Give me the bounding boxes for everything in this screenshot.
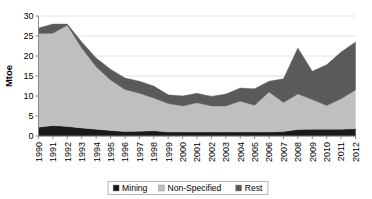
x-tick-label-2007: 2007 (279, 142, 289, 162)
y-tick-label: 15 (23, 71, 33, 81)
y-tick-label: 5 (28, 111, 33, 121)
x-tick-label-1990: 1990 (34, 142, 44, 162)
x-tick-label-2006: 2006 (264, 142, 274, 162)
legend-label-rest: Rest (245, 183, 263, 193)
x-tick-label-2002: 2002 (207, 142, 217, 162)
y-axis-label: Mtoe (3, 65, 14, 87)
stacked-area-chart: 051015202530 199019911992199319941995199… (0, 0, 372, 199)
legend-swatch-rest (236, 185, 242, 191)
x-tick-label-2003: 2003 (221, 142, 231, 162)
legend-label-non-specified: Non-Specified (167, 183, 221, 193)
x-tick-label-1996: 1996 (120, 142, 130, 162)
x-tick-label-2000: 2000 (178, 142, 188, 162)
x-tick-label-2004: 2004 (236, 142, 246, 162)
x-axis-ticks: 1990199119921993199419951996199719981999… (34, 136, 361, 162)
y-tick-label: 0 (28, 131, 33, 141)
x-tick-label-1997: 1997 (135, 142, 145, 162)
x-tick-label-2010: 2010 (322, 142, 332, 162)
area-series-group (39, 24, 356, 136)
legend-swatch-mining (113, 185, 119, 191)
x-tick-label-2009: 2009 (308, 142, 318, 162)
x-tick-label-1991: 1991 (48, 142, 58, 162)
x-tick-label-2011: 2011 (336, 142, 346, 161)
x-tick-label-1999: 1999 (164, 142, 174, 162)
x-tick-label-1995: 1995 (106, 142, 116, 162)
x-tick-label-1994: 1994 (92, 142, 102, 162)
x-tick-label-2005: 2005 (250, 142, 260, 162)
x-tick-label-2012: 2012 (351, 142, 361, 162)
y-axis-ticks: 051015202530 (23, 11, 38, 141)
chart-canvas: 051015202530 199019911992199319941995199… (0, 0, 372, 199)
y-tick-label: 25 (23, 31, 33, 41)
x-tick-label-1992: 1992 (63, 142, 73, 162)
x-tick-label-2001: 2001 (192, 142, 202, 162)
x-tick-label-1998: 1998 (149, 142, 159, 162)
x-tick-label-1993: 1993 (77, 142, 87, 162)
chart-legend: MiningNon-SpecifiedRest (108, 182, 268, 195)
y-tick-label: 20 (23, 51, 33, 61)
legend-label-mining: Mining (122, 183, 148, 193)
y-tick-label: 10 (23, 91, 33, 101)
legend-swatch-non-specified (158, 185, 164, 191)
x-tick-label-2008: 2008 (293, 142, 303, 162)
y-tick-label: 30 (23, 11, 33, 21)
